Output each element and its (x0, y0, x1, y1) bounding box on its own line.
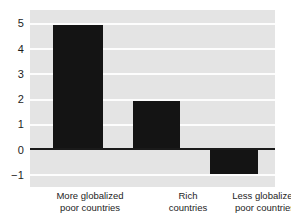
x-tick-label-less-globalized-poor-countries: Less globalized poor countries (200, 190, 291, 214)
y-tick-label-4: 4 (18, 43, 24, 54)
gridline-neg1 (30, 174, 275, 176)
zero-baseline (30, 148, 275, 150)
y-tick-label-3: 3 (18, 68, 24, 79)
bar-chart-figure: 5 4 3 2 1 0 −1 More globalized poor coun… (0, 0, 291, 220)
y-tick-label-1: 1 (18, 119, 24, 130)
plot-area (30, 10, 275, 187)
bar-more-globalized-poor-countries (53, 25, 103, 149)
y-tick-label-0: 0 (18, 144, 24, 155)
y-tick-label-5: 5 (18, 18, 24, 29)
y-axis: 5 4 3 2 1 0 −1 (0, 10, 28, 187)
bar-rich-countries (133, 101, 180, 149)
x-axis: More globalized poor countries Rich coun… (30, 190, 275, 220)
y-tick-label-2: 2 (18, 94, 24, 105)
x-tick-label-more-globalized-poor-countries: More globalized poor countries (25, 190, 155, 214)
bar-less-globalized-poor-countries (210, 149, 258, 174)
y-tick-label-neg1: −1 (11, 169, 24, 180)
